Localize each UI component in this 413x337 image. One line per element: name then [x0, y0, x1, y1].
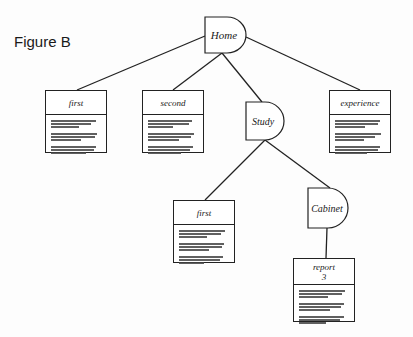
document-title: report 3: [294, 259, 354, 285]
edge-home-experience: [246, 37, 360, 90]
edge-study-cabinet: [265, 140, 330, 188]
document-title: experience: [330, 91, 390, 115]
study-label: Study: [252, 116, 274, 127]
document-title: first: [174, 201, 234, 225]
document-first-study[interactable]: first: [173, 200, 235, 263]
document-body-text: [143, 115, 203, 159]
document-body-text: [174, 225, 234, 269]
cabinet-label: Cabinet: [311, 203, 343, 214]
document-body-text: [46, 115, 106, 159]
edge-home-study: [222, 53, 262, 102]
document-body-text: [330, 115, 390, 159]
document-first[interactable]: first: [45, 90, 107, 153]
edge-home-first: [77, 36, 205, 90]
edge-study-first: [205, 140, 265, 200]
edge-home-second: [173, 53, 222, 90]
document-experience[interactable]: experience: [329, 90, 391, 153]
document-report[interactable]: report 3: [293, 258, 355, 322]
figure-canvas: Figure B Home Study Cabinet first: [0, 0, 413, 337]
document-body-text: [294, 285, 354, 329]
home-label: Home: [211, 29, 237, 41]
study-node[interactable]: Study: [246, 102, 280, 140]
home-node[interactable]: Home: [205, 17, 243, 53]
edge-cabinet-report: [326, 228, 327, 258]
document-title: second: [143, 91, 203, 115]
document-title: first: [46, 91, 106, 115]
document-second[interactable]: second: [142, 90, 204, 153]
cabinet-node[interactable]: Cabinet: [308, 188, 346, 228]
